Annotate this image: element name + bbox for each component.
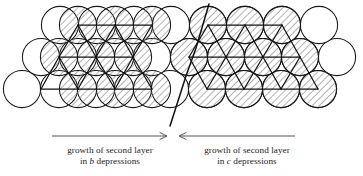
open-circle <box>300 6 337 43</box>
arrow-left-growth <box>52 133 167 140</box>
caption-right-line2: in c depressions <box>176 156 318 167</box>
arrow-right-growth <box>179 133 295 140</box>
caption-left-growth: growth of second layer in b depressions <box>40 145 180 168</box>
caption-right-line1: growth of second layer <box>176 145 318 156</box>
open-circle <box>318 38 355 75</box>
caption-left-line1: growth of second layer <box>40 145 180 156</box>
caption-left-line2: in b depressions <box>40 156 180 167</box>
sphere-packing-figure: growth of second layer in b depressions … <box>0 0 363 176</box>
caption-right-prefix: in <box>217 156 227 166</box>
open-circle <box>3 70 40 107</box>
caption-left-suffix: depressions <box>94 156 140 166</box>
caption-left-prefix: in <box>80 156 90 166</box>
packing-layers <box>3 4 355 126</box>
caption-right-suffix: depressions <box>231 156 277 166</box>
caption-right-growth: growth of second layer in c depressions <box>176 145 318 168</box>
